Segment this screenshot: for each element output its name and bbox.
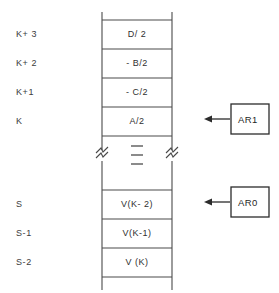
address-label-k-plus-2: K+ 2	[16, 59, 37, 68]
address-label-s-minus-1: S-1	[16, 229, 32, 238]
cell-content-k-plus-1: - C/2	[102, 88, 172, 97]
register-label-ar0: AR0	[238, 198, 258, 208]
cell-content-s-minus-2: V (K)	[102, 258, 172, 267]
vertical-ellipsis-icon	[131, 146, 143, 164]
cell-content-s-minus-1: V(K-1)	[102, 229, 172, 238]
address-label-k: K	[16, 117, 23, 126]
diagram-vector-layer	[0, 0, 279, 293]
ar1-pointer-arrow-icon	[204, 116, 230, 123]
address-label-s-minus-2: S-2	[16, 258, 32, 267]
register-label-ar1: AR1	[238, 115, 258, 125]
memory-layout-diagram: K+ 3 K+ 2 K+1 K S S-1 S-2 D/ 2 - B/2 - C…	[0, 0, 279, 293]
ar0-pointer-arrow-icon	[204, 199, 230, 206]
address-label-k-plus-1: K+1	[16, 88, 34, 97]
cell-content-s: V(K- 2)	[102, 200, 172, 209]
cell-content-k-plus-2: - B/2	[102, 59, 172, 68]
cell-content-k: A/2	[102, 117, 172, 126]
address-label-k-plus-3: K+ 3	[16, 30, 37, 39]
address-label-s: S	[16, 200, 23, 209]
cell-content-k-plus-3: D/ 2	[102, 30, 172, 39]
